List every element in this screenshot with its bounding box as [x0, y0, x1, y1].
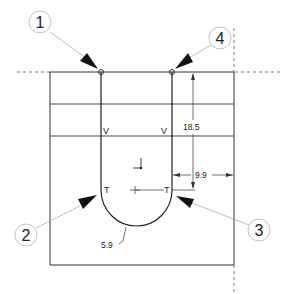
balloon-1: 1	[29, 11, 51, 33]
dimension-vertical-value: 18.5	[183, 122, 200, 132]
svg-text:1: 1	[36, 14, 45, 31]
t-marker-right: T	[164, 185, 170, 195]
dimension-horizontal-value: 9.9	[195, 170, 207, 180]
v-marker-left: V	[103, 126, 109, 136]
svg-text:4: 4	[216, 30, 225, 47]
radius-leader	[119, 227, 126, 244]
arrow-4-icon	[175, 53, 193, 69]
t-marker-left: T	[104, 185, 110, 195]
v-marker-right: V	[161, 126, 167, 136]
origin-axis-icon	[133, 158, 142, 169]
balloon-3: 3	[248, 219, 270, 241]
leader-1	[50, 32, 86, 58]
arrow-2-icon	[78, 195, 97, 209]
balloon-2: 2	[15, 224, 37, 246]
svg-text:2: 2	[22, 227, 31, 244]
slot-profile	[101, 72, 172, 226]
dimension-radius-value: 5.9	[101, 240, 113, 250]
arrow-3-icon	[176, 196, 194, 208]
svg-text:3: 3	[255, 222, 264, 239]
leader-4	[189, 45, 211, 58]
balloon-4: 4	[209, 27, 231, 49]
leader-3	[192, 203, 249, 225]
leader-2	[36, 206, 80, 228]
drawing-canvas: V V T T 18.5 9.9 5.9 1	[0, 0, 285, 294]
slot-drawing: V V T T 18.5 9.9 5.9 1	[0, 0, 285, 294]
